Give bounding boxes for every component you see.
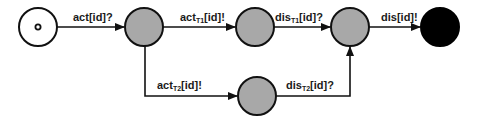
transition-label-dis-t1: disT1[id]? <box>275 11 323 24</box>
transition-dis-t1: disT1[id]? <box>274 11 330 27</box>
transition-label-act-t1: actT1[id]! <box>180 11 225 24</box>
transition-dis-t2: disT2[id]? <box>276 47 350 96</box>
transition-label-dis-t2: disT2[id]? <box>286 79 334 92</box>
state-s4 <box>238 77 276 115</box>
state-diagram: act[id]? actT1[id]! disT1[id]? dis[id]! … <box>0 0 479 116</box>
transition-label-act: act[id]? <box>73 11 113 23</box>
transition-act: act[id]? <box>57 11 124 27</box>
transition-label-act-t2: actT2[id]! <box>157 79 202 92</box>
state-s3 <box>331 8 369 46</box>
transition-act-t2: actT2[id]! <box>145 46 237 96</box>
state-s2 <box>236 8 274 46</box>
transition-act-t1: actT1[id]! <box>163 11 235 27</box>
state-s1 <box>125 8 163 46</box>
transition-dis: dis[id]! <box>369 11 420 27</box>
state-initial <box>19 8 57 46</box>
initial-dot-icon <box>35 24 40 29</box>
state-final <box>421 8 459 46</box>
transition-label-dis: dis[id]! <box>381 11 418 23</box>
